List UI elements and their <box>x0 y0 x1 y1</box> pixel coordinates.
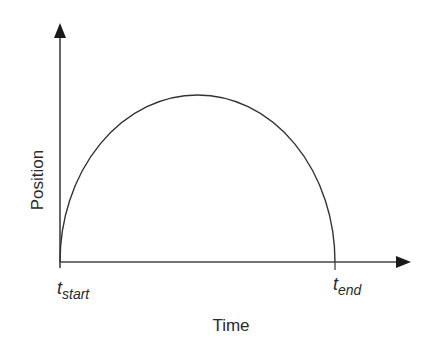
position-time-diagram: Position Time tstart tend <box>0 0 433 358</box>
position-curve <box>60 95 335 262</box>
x-axis-arrow-icon <box>396 256 411 268</box>
y-axis-label: Position <box>28 150 47 210</box>
tick-label-t-end: tend <box>333 274 363 298</box>
tick-sub: start <box>62 286 90 302</box>
tick-label-t-start: tstart <box>57 278 90 302</box>
tick-sub: end <box>338 282 363 298</box>
y-axis-arrow-icon <box>54 23 66 38</box>
x-axis-label: Time <box>212 316 249 335</box>
